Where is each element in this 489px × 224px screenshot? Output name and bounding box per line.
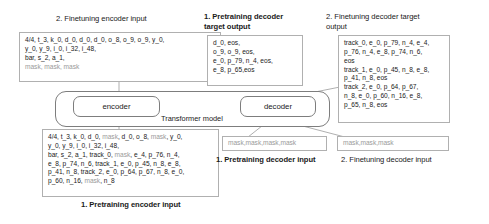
token-run: , e_4, p_76, n_4, <box>130 151 179 158</box>
token-run: p_76, n_4, e_8, p_74, n_6, <box>344 48 422 55</box>
token-line: o_9, o_9, eos, <box>213 48 298 57</box>
token-lines: mask,mask,mask,mask <box>228 139 322 148</box>
token-line: n_8, e_0, p_60, n_16, e_8, <box>344 92 445 101</box>
token-lines: track_0, e_0, p_79, n_4, e_4,p_76, n_4, … <box>344 39 445 110</box>
box-pretraining-decoder-target-output: d_0, eos,o_9, o_9, eos,e_0, p_79, n_4, e… <box>207 35 303 86</box>
token-run: p_60, n_16, <box>48 177 84 184</box>
token-line: 4/4, t_3, k_0, d_0, mask, d_0, o_8, mask… <box>48 133 214 142</box>
box-pretraining-encoder-input: 4/4, t_3, k_0, d_0, mask, d_0, o_8, mask… <box>42 129 219 197</box>
mask-token: mask, mask, mask <box>25 63 79 70</box>
mask-token: mask <box>151 133 167 140</box>
token-line: y_0, y_9, i_0, i_32, i_48, <box>25 45 216 54</box>
decoder-block: decoder <box>240 96 316 117</box>
token-run: bar, s_2, a_1, <box>25 54 65 61</box>
caption-finetuning-decoder-target-output: 2. Finetuning decoder target output <box>326 12 466 31</box>
token-line: track_2, e_0, p_64, p_67, <box>344 83 445 92</box>
token-lines: 4/4, t_3, k_0, d_0, mask, d_0, o_8, mask… <box>48 133 214 186</box>
token-run: , y_0, <box>166 133 182 140</box>
mask-token: mask <box>115 151 131 158</box>
token-run: 4/4, t_3, k_0, d_0, d_0, d_0, o_8, o_9, … <box>25 36 164 43</box>
token-run: y_0, y_9, i_0, i_32, i_48, <box>48 142 119 149</box>
token-line: eos <box>344 57 445 66</box>
token-run: eos <box>344 57 355 64</box>
token-run: d_0, eos, <box>213 39 240 46</box>
box-pretraining-decoder-input: mask,mask,mask,mask <box>222 136 327 151</box>
token-run: e_0, p_79, n_4, eos, <box>213 57 273 64</box>
token-run: track_0, e_0, p_79, n_4, e_4, <box>344 39 429 46</box>
mask-token: mask,mask,mask,mask <box>228 139 296 146</box>
token-line: d_0, eos, <box>213 39 298 48</box>
token-run: o_9, o_9, eos, <box>213 48 255 55</box>
token-line: e_8, p_65,eos <box>213 66 298 75</box>
transformer-model-label: Transformer model <box>161 114 223 123</box>
token-line: e_8, p_74, n_6, track_1, e_0, p_45, n_8,… <box>48 160 214 169</box>
token-line: bar, s_2, a_1, <box>25 54 216 63</box>
token-line: y_0, y_9, i_0, i_32, i_48, <box>48 142 214 151</box>
token-line: mask,mask,mask <box>343 139 444 148</box>
figure-canvas: 2. Finetuning encoder input 4/4, t_3, k_… <box>0 0 489 224</box>
token-lines: d_0, eos,o_9, o_9, eos,e_0, p_79, n_4, e… <box>213 39 298 74</box>
token-line: bar, s_2, a_1, track_0, mask, e_4, p_76,… <box>48 151 214 160</box>
caption-pretraining-encoder-input: 1. Pretraining encoder input <box>81 200 180 210</box>
mask-token: mask,mask,mask <box>343 139 394 146</box>
encoder-block: encoder <box>73 96 160 117</box>
token-run: 4/4, t_3, k_0, d_0, <box>48 133 102 140</box>
token-run: p_41, n_8, track_2, e_0, p_64, p_67, n_8… <box>48 168 184 175</box>
box-finetuning-encoder-input: 4/4, t_3, k_0, d_0, d_0, d_0, o_8, o_9, … <box>19 32 221 82</box>
token-run: p_41, n_8, eos <box>344 74 387 81</box>
token-line: p_65, n_8, eos <box>344 101 445 110</box>
token-line: track_0, e_0, p_79, n_4, e_4, <box>344 39 445 48</box>
token-line: p_41, n_8, track_2, e_0, p_64, p_67, n_8… <box>48 168 214 177</box>
token-run: , d_0, o_8, <box>118 133 151 140</box>
token-run: e_8, p_74, n_6, track_1, e_0, p_45, n_8,… <box>48 160 181 167</box>
caption-pretraining-decoder-target-output: 1. Pretraining decoder target output <box>204 12 316 31</box>
box-finetuning-decoder-input: mask,mask,mask <box>337 136 449 151</box>
token-run: e_8, p_65,eos <box>213 66 255 73</box>
token-line: 4/4, t_3, k_0, d_0, d_0, d_0, o_8, o_9, … <box>25 36 216 45</box>
token-run: n_8, e_0, p_60, n_16, e_8, <box>344 92 422 99</box>
token-line: mask, mask, mask <box>25 63 216 72</box>
token-run: , n_8 <box>100 177 115 184</box>
mask-token: mask <box>84 177 100 184</box>
caption-pretraining-decoder-input: 1. Pretraining decoder input <box>216 155 315 165</box>
token-line: p_60, n_16, mask, n_8 <box>48 177 214 186</box>
token-line: p_41, n_8, eos <box>344 74 445 83</box>
token-run: track_1, e_0, p_45, n_8, e_8, <box>344 66 429 73</box>
token-line: p_76, n_4, e_8, p_74, n_6, <box>344 48 445 57</box>
token-run: y_0, y_9, i_0, i_32, i_48, <box>25 45 96 52</box>
token-run: track_2, e_0, p_64, p_67, <box>344 83 418 90</box>
token-line: mask,mask,mask,mask <box>228 139 322 148</box>
mask-token: mask <box>102 133 118 140</box>
caption-finetuning-decoder-input: 2. Finetuning decoder input <box>341 155 432 165</box>
caption-finetuning-encoder-input: 2. Finetuning encoder input <box>56 14 147 24</box>
encoder-label: encoder <box>102 102 130 111</box>
token-lines: mask,mask,mask <box>343 139 444 148</box>
token-line: e_0, p_79, n_4, eos, <box>213 57 298 66</box>
box-finetuning-decoder-target-output: track_0, e_0, p_79, n_4, e_4,p_76, n_4, … <box>338 35 450 123</box>
token-run: p_65, n_8, eos <box>344 101 387 108</box>
token-line: track_1, e_0, p_45, n_8, e_8, <box>344 66 445 75</box>
token-run: bar, s_2, a_1, track_0, <box>48 151 115 158</box>
token-lines: 4/4, t_3, k_0, d_0, d_0, d_0, o_8, o_9, … <box>25 36 216 71</box>
decoder-label: decoder <box>264 102 292 111</box>
